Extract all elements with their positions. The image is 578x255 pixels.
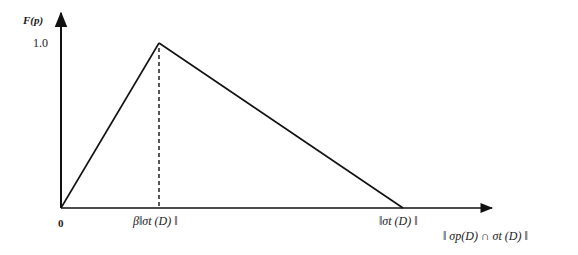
rising-line	[61, 43, 159, 208]
origin-label: 0	[58, 217, 64, 229]
x-tick-beta-label: β‖σt (D) ‖	[133, 214, 178, 229]
x-tick-sigma-label: ‖σt (D) ‖	[379, 214, 418, 229]
y-tick-label: 1.0	[33, 36, 48, 51]
x-axis-label: ‖ σp(D) ∩ σt (D) ‖	[443, 229, 528, 244]
y-axis-label: F(p)	[23, 14, 43, 26]
falling-line	[159, 43, 403, 208]
triangle-function-plot	[0, 0, 578, 255]
